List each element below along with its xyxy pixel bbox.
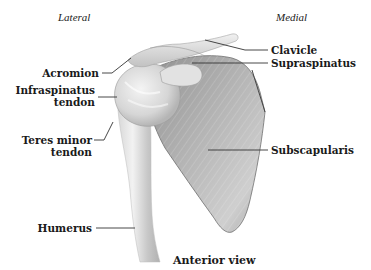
teres-minor-label-line1: Teres minor <box>22 134 92 146</box>
acromion-label: Acromion <box>42 67 99 79</box>
infraspinatus-label-line1: Infraspinatus <box>16 84 95 96</box>
shoulder-anatomy-figure: Lateral Medial Acromion Infraspinatus te… <box>0 0 371 270</box>
medial-label: Medial <box>276 11 307 23</box>
figure-caption: Anterior view <box>173 254 256 267</box>
infraspinatus-label-line2: tendon <box>54 96 95 108</box>
lateral-label: Lateral <box>58 11 90 23</box>
teres-minor-label-line2: tendon <box>51 146 92 158</box>
supraspinatus-label: Supraspinatus <box>271 57 356 69</box>
subscapularis-label: Subscapularis <box>271 144 354 156</box>
teres-minor-leader <box>94 122 113 140</box>
clavicle-label: Clavicle <box>271 44 317 56</box>
humerus-label: Humerus <box>38 222 92 234</box>
